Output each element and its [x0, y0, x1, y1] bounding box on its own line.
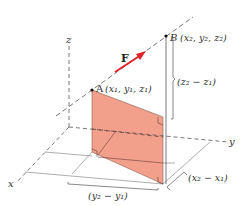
point-b [164, 34, 167, 37]
dx-label: (x₂ − x₁) [188, 172, 228, 183]
shaded-plane [92, 90, 163, 184]
point-b-name: B [169, 32, 177, 43]
dz-label: (z₂ − z₁) [177, 76, 216, 87]
y-axis-label: y [228, 136, 235, 147]
ground-line-1 [45, 152, 92, 156]
dy-brace [68, 182, 158, 190]
dy-label: (y₂ − y₁) [88, 190, 128, 201]
z-axis-label: z [65, 34, 72, 45]
point-a [90, 88, 93, 91]
force-vector-diagram: z y x F A (x₁, y₁, z₁) B (x₂, y₂, z₂) (z… [0, 0, 243, 206]
x-axis-label: x [8, 178, 14, 189]
dx-brace [167, 172, 187, 190]
point-a-coords: (x₁, y₁, z₁) [105, 83, 152, 94]
force-arrowhead-icon [136, 51, 146, 60]
dz-brace [171, 37, 175, 119]
point-a-name: A [95, 83, 104, 94]
x-axis [16, 127, 69, 183]
point-b-coords: (x₂, y₂, z₂) [180, 32, 227, 43]
force-label: F [121, 52, 129, 65]
